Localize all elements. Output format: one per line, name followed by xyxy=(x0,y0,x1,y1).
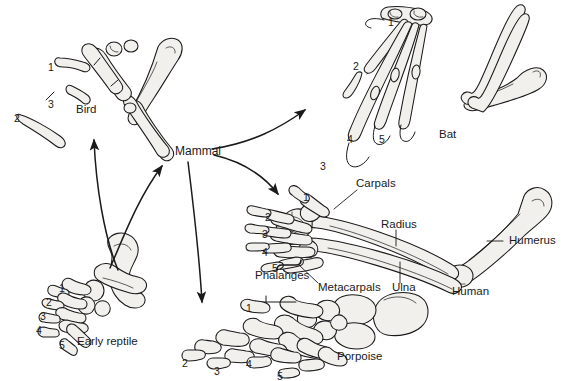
diagram-artwork: .bone { fill:#f2f0ec; stroke:#1a1a1a; st… xyxy=(0,0,564,381)
digit-number-bat-5: 5 xyxy=(379,134,385,145)
digit-number-porpoise-3: 3 xyxy=(214,366,220,377)
node-label-mammal: Mammal xyxy=(175,145,221,157)
bone-label-carpals: Carpals xyxy=(356,178,396,190)
taxon-label-bat: Bat xyxy=(439,129,456,141)
digit-number-bird-2: 2 xyxy=(14,113,20,124)
bone-label-ulna: Ulna xyxy=(392,282,416,294)
digit-number-human-3: 3 xyxy=(262,229,268,240)
digit-number-bird-1: 1 xyxy=(48,62,54,73)
digit-number-human-4: 4 xyxy=(262,247,268,258)
digit-number-porpoise-4: 4 xyxy=(246,359,252,370)
taxon-label-human: Human xyxy=(452,286,489,298)
digit-number-bat-1: 1 xyxy=(388,17,394,28)
digit-number-bat-2: 2 xyxy=(353,61,359,72)
bat-limb-illustration xyxy=(343,5,547,167)
digit-number-bat-4: 4 xyxy=(347,134,353,145)
digit-number-porpoise-5: 5 xyxy=(277,371,283,381)
bone-label-humerus: Humerus xyxy=(509,235,556,247)
digit-number-reptile-4: 4 xyxy=(36,325,42,336)
digit-number-porpoise-2: 2 xyxy=(182,358,188,369)
taxon-label-bird: Bird xyxy=(76,104,96,116)
digit-number-human-1: 1 xyxy=(303,192,309,203)
digit-number-porpoise-1: 1 xyxy=(246,303,252,314)
homologous-limbs-diagram: .bone { fill:#f2f0ec; stroke:#1a1a1a; st… xyxy=(0,0,564,381)
arrow-mammal-to-porpoise xyxy=(188,162,202,302)
digit-number-bird-3: 3 xyxy=(48,99,54,110)
bird-limb-illustration xyxy=(17,38,182,161)
digit-number-bat-3: 3 xyxy=(320,161,326,172)
bone-label-metacarpals: Metacarpals xyxy=(318,282,381,294)
bone-label-phalanges: Phalanges xyxy=(255,270,309,282)
bone-label-radius: Radius xyxy=(381,219,417,231)
digit-number-human-5: 5 xyxy=(272,263,278,274)
arrow-mammal-to-bat xyxy=(212,110,305,149)
taxon-label-porpoise: Porpoise xyxy=(337,351,382,363)
digit-number-human-2: 2 xyxy=(265,212,271,223)
leader-carpals xyxy=(334,190,357,209)
digit-number-reptile-2: 2 xyxy=(46,297,52,308)
digit-number-reptile-1: 1 xyxy=(59,283,65,294)
digit-number-reptile-5: 5 xyxy=(59,340,65,351)
digit-number-reptile-3: 3 xyxy=(40,311,46,322)
taxon-label-early-reptile: Early reptile xyxy=(77,336,138,348)
arrow-mammal-to-human xyxy=(214,155,278,194)
